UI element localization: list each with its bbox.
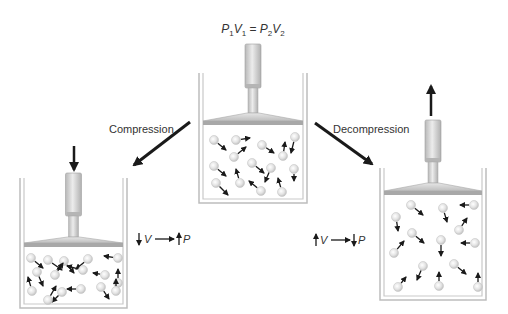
gas-molecule xyxy=(278,188,287,197)
piston-neck xyxy=(248,88,258,113)
velocity-arrow xyxy=(218,143,226,150)
velocity-arrow xyxy=(401,277,406,283)
gas-molecule xyxy=(60,257,69,266)
velocity-arrow xyxy=(417,271,421,280)
eq-equals: = xyxy=(246,22,260,36)
velocity-arrow xyxy=(249,181,257,188)
piston-cone xyxy=(384,183,482,191)
gas-molecule xyxy=(390,249,399,258)
velocity-arrow xyxy=(238,147,246,154)
gas-molecule xyxy=(230,153,239,162)
container-compressed xyxy=(20,173,127,308)
gas-molecule xyxy=(474,283,483,292)
gas-molecule xyxy=(44,296,53,305)
gas-molecule xyxy=(471,239,480,248)
piston-cone xyxy=(24,237,123,243)
gas-molecule xyxy=(33,268,42,277)
eq-v2-sub: 2 xyxy=(280,29,285,38)
gas-molecule xyxy=(450,260,459,269)
gas-molecule xyxy=(392,213,401,222)
velocity-arrow xyxy=(39,277,43,286)
velocity-arrow xyxy=(236,169,239,178)
gas-molecule xyxy=(290,165,299,174)
velocity-arrow xyxy=(265,173,269,182)
gas-molecule xyxy=(437,236,446,245)
equation-title: P1V1 = P2V2 xyxy=(221,22,285,38)
decompression-relation: V P xyxy=(316,234,366,246)
gas-molecule xyxy=(408,229,417,238)
gas-molecule xyxy=(114,279,123,288)
piston-collar xyxy=(67,212,81,216)
container-decompressed xyxy=(380,120,486,300)
velocity-arrow xyxy=(462,218,467,226)
gas-molecule xyxy=(394,283,403,292)
gas-molecule xyxy=(44,256,53,265)
gas-molecule xyxy=(51,271,60,280)
volume-symbol: V xyxy=(144,233,153,245)
gas-molecule xyxy=(77,285,86,294)
gas-molecule xyxy=(101,271,110,280)
velocity-arrow xyxy=(35,261,43,268)
velocity-arrow xyxy=(416,236,424,243)
gas-molecule xyxy=(112,287,121,296)
velocity-arrow xyxy=(218,169,226,176)
gas-molecule xyxy=(455,226,464,235)
gas-molecule xyxy=(97,283,106,292)
gas-molecule xyxy=(58,288,67,297)
compression-relation: V P xyxy=(139,233,191,245)
velocity-arrow xyxy=(397,222,398,231)
piston-neck xyxy=(69,216,79,237)
piston-rod xyxy=(425,120,441,162)
velocity-arrow xyxy=(256,166,264,173)
piston-collar xyxy=(246,84,260,88)
gas-molecule xyxy=(439,204,448,213)
gas-molecule xyxy=(84,255,93,264)
boyles-law-diagram: P1V1 = P2V2 Compression Decompression V … xyxy=(0,0,508,314)
gas-molecule xyxy=(248,159,257,168)
gas-molecule xyxy=(236,179,245,188)
gas-molecule xyxy=(291,133,300,142)
pressure-symbol: P xyxy=(183,233,191,245)
velocity-arrow xyxy=(278,178,281,187)
velocity-arrow xyxy=(220,187,228,195)
gas-molecule xyxy=(79,266,88,275)
velocity-arrow xyxy=(291,142,294,153)
velocity-arrow xyxy=(458,267,466,274)
velocity-arrow xyxy=(266,148,274,153)
piston-cone xyxy=(203,113,303,121)
gas-molecule xyxy=(258,141,267,150)
velocity-arrow xyxy=(415,208,423,215)
velocity-arrow xyxy=(444,213,447,222)
gas-molecule xyxy=(27,254,36,263)
gas-molecule xyxy=(210,162,219,171)
eq-p2: P xyxy=(260,22,268,36)
gas-molecule xyxy=(419,262,428,271)
velocity-arrow xyxy=(52,296,58,302)
gas-molecule xyxy=(28,287,37,296)
piston-collar xyxy=(426,158,440,162)
compression-label: Compression xyxy=(109,123,174,135)
gas-molecule xyxy=(470,201,479,210)
piston-rod xyxy=(245,44,261,88)
eq-p1: P xyxy=(221,22,229,36)
piston-plate xyxy=(24,243,123,247)
velocity-arrow xyxy=(93,273,100,274)
velocity-arrow xyxy=(284,142,285,151)
gas-molecule xyxy=(407,201,416,210)
piston-plate xyxy=(203,121,303,125)
velocity-arrow xyxy=(28,277,31,286)
volume-symbol: V xyxy=(320,234,329,246)
gas-molecule xyxy=(114,254,123,263)
pressure-symbol: P xyxy=(358,234,366,246)
gas-molecule xyxy=(212,179,221,188)
velocity-arrow xyxy=(241,138,250,139)
velocity-arrow xyxy=(50,286,56,296)
gas-molecule xyxy=(257,187,266,196)
gas-molecule xyxy=(267,164,276,173)
velocity-arrow xyxy=(104,256,113,257)
gas-molecule xyxy=(232,136,241,145)
container-initial xyxy=(199,44,307,203)
velocity-arrow xyxy=(397,241,404,249)
piston-rod xyxy=(66,173,82,216)
gas-molecule xyxy=(210,136,219,145)
